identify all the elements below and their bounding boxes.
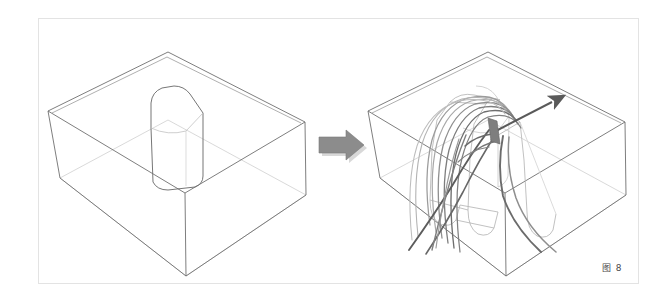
left-panel	[48, 52, 306, 276]
right-panel	[368, 52, 626, 276]
box-wall-thickness	[372, 57, 621, 123]
transition-arrow	[319, 130, 367, 163]
flow-arrow-tail-block	[488, 118, 500, 144]
figure-root: 图 8	[0, 0, 654, 302]
figure-drawing-canvas	[0, 0, 654, 302]
rounded-pillar-obstacle	[151, 86, 203, 190]
figure-caption: 图 8	[602, 261, 623, 274]
box-wall-thickness	[52, 57, 301, 123]
